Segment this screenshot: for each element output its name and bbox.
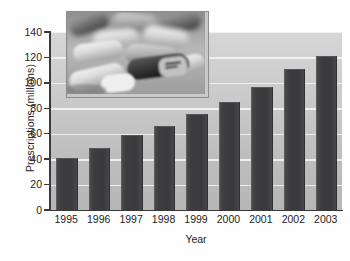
y-tick-mark xyxy=(44,133,49,134)
y-tick-mark xyxy=(44,158,49,159)
y-tick-mark xyxy=(44,57,49,58)
y-tick-label: 140 xyxy=(2,27,42,38)
y-axis-line xyxy=(49,31,51,211)
bar-2003 xyxy=(316,56,337,210)
y-tick-label: 0 xyxy=(2,205,42,216)
y-tick-label: 120 xyxy=(2,52,42,63)
pills-photo-image xyxy=(67,12,205,94)
bar-1997 xyxy=(121,135,142,210)
y-tick-mark xyxy=(44,31,49,32)
bar-1998 xyxy=(154,126,175,210)
y-tick-mark xyxy=(44,82,49,83)
bar-1995 xyxy=(56,158,77,210)
x-axis-line xyxy=(49,210,343,212)
y-tick-mark xyxy=(44,209,49,210)
y-tick-label: 60 xyxy=(2,128,42,139)
bar-2002 xyxy=(284,69,305,210)
x-axis-title: Year xyxy=(50,233,342,245)
bar-2001 xyxy=(251,87,272,210)
y-tick-label: 40 xyxy=(2,154,42,165)
x-tick-label: 2003 xyxy=(306,213,346,225)
y-tick-label: 100 xyxy=(2,77,42,88)
y-tick-mark xyxy=(44,184,49,185)
y-tick-mark xyxy=(44,108,49,109)
bar-1999 xyxy=(186,114,207,210)
y-tick-label: 20 xyxy=(2,179,42,190)
pills-photograph-inset xyxy=(66,11,209,98)
bar-2000 xyxy=(219,102,240,210)
y-tick-label: 80 xyxy=(2,103,42,114)
bar-1996 xyxy=(89,148,110,210)
bar-chart-figure: Prescriptions (millions) 020406080100120… xyxy=(0,0,350,261)
